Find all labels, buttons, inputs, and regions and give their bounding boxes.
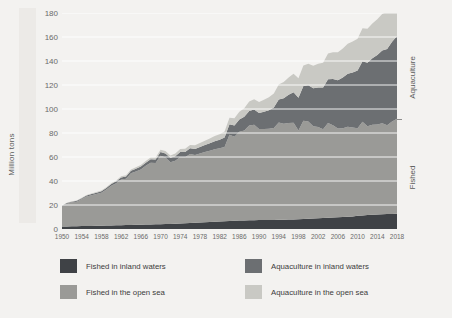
x-axis-tick-labels: 1950195419581962196619701974197819821986…	[62, 233, 397, 245]
y-tick-label: 80	[28, 129, 58, 138]
chart-legend: Fished in inland watersFished in the ope…	[60, 253, 430, 305]
x-tick-label: 1978	[193, 233, 207, 240]
x-tick-label: 2014	[370, 233, 384, 240]
x-tick-label: 2002	[311, 233, 325, 240]
x-tick-label: 2006	[331, 233, 345, 240]
y-tick-label: 120	[28, 81, 58, 90]
x-tick-label: 1954	[74, 233, 88, 240]
plot-area	[62, 13, 397, 229]
x-tick-label: 2010	[350, 233, 364, 240]
legend-label: Fished in the open sea	[86, 288, 165, 297]
x-tick-label: 1950	[55, 233, 69, 240]
legend-label: Fished in inland waters	[86, 262, 166, 271]
legend-fished-inland[interactable]: Fished in inland waters	[60, 253, 245, 279]
x-tick-label: 1962	[114, 233, 128, 240]
legend-label: Aquaculture in inland waters	[271, 262, 369, 271]
plot-svg	[62, 13, 397, 229]
y-tick-label: 20	[28, 201, 58, 210]
x-tick-label: 1982	[212, 233, 226, 240]
x-tick-label: 1974	[173, 233, 187, 240]
group-label-fished: Fished	[408, 166, 417, 190]
y-tick-label: 0	[28, 225, 58, 234]
x-tick-label: 1958	[94, 233, 108, 240]
legend-aquaculture-inland[interactable]: Aquaculture in inland waters	[245, 253, 430, 279]
legend-swatch-icon	[245, 259, 262, 273]
x-tick-label: 2018	[390, 233, 404, 240]
y-axis-tick-labels: 180160140120100806040200	[26, 13, 58, 229]
legend-swatch-icon	[245, 285, 262, 299]
y-axis-label: Million tons	[7, 133, 16, 175]
y-tick-label: 160	[28, 33, 58, 42]
y-tick-label: 180	[28, 9, 58, 18]
y-tick-label: 140	[28, 57, 58, 66]
group-divider-tick	[397, 119, 402, 120]
x-tick-label: 1986	[232, 233, 246, 240]
x-tick-label: 1966	[134, 233, 148, 240]
x-tick-label: 1998	[291, 233, 305, 240]
y-tick-label: 100	[28, 105, 58, 114]
y-tick-label: 40	[28, 177, 58, 186]
x-tick-label: 1994	[272, 233, 286, 240]
legend-aquaculture-open-sea[interactable]: Aquaculture in the open sea	[245, 279, 430, 305]
legend-swatch-icon	[60, 285, 77, 299]
x-tick-label: 1990	[252, 233, 266, 240]
legend-label: Aquaculture in the open sea	[271, 288, 368, 297]
x-tick-label: 1970	[153, 233, 167, 240]
legend-swatch-icon	[60, 259, 77, 273]
group-label-aquaculture: Aquaculture	[407, 57, 416, 100]
legend-fished-open-sea[interactable]: Fished in the open sea	[60, 279, 245, 305]
stacked-area-chart: Million tons 180160140120100806040200 19…	[0, 0, 452, 318]
y-tick-label: 60	[28, 153, 58, 162]
